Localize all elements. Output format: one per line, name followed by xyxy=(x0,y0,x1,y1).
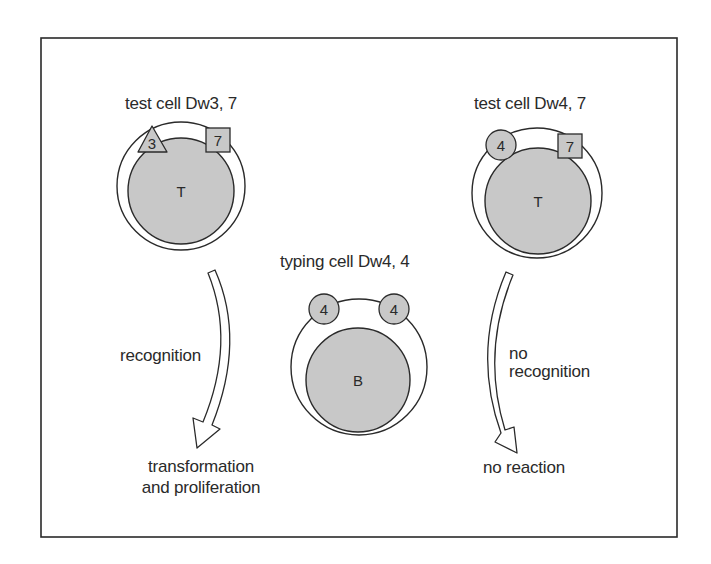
svg-text:T: T xyxy=(176,183,185,200)
svg-text:4: 4 xyxy=(390,301,398,318)
outcome-left-line1: transformation xyxy=(108,457,294,477)
no-recognition-label-line2: recognition xyxy=(509,362,590,382)
typing-cell: 4 4 B xyxy=(291,294,427,435)
test-cell-left: 3 7 T xyxy=(117,122,245,250)
no-recognition-label-line1: no xyxy=(509,344,528,364)
mlc-diagram: 3 7 T 4 7 T xyxy=(0,0,711,564)
diagram-canvas: 3 7 T 4 7 T xyxy=(0,0,711,564)
antigen-circle-4: 4 xyxy=(486,130,516,160)
test-cell-left-title: test cell Dw3, 7 xyxy=(125,94,237,114)
test-cell-right-title: test cell Dw4, 7 xyxy=(474,94,586,114)
svg-text:3: 3 xyxy=(148,135,156,152)
typing-cell-title: typing cell Dw4, 4 xyxy=(280,252,410,272)
svg-text:4: 4 xyxy=(320,301,328,318)
svg-text:4: 4 xyxy=(497,137,505,154)
recognition-label: recognition xyxy=(120,346,201,366)
svg-text:7: 7 xyxy=(566,138,574,155)
antigen-circle-4-right: 4 xyxy=(379,294,409,324)
outcome-left-line2: and proliferation xyxy=(108,478,294,498)
test-cell-right: 4 7 T xyxy=(472,128,602,258)
svg-text:B: B xyxy=(353,372,363,389)
svg-text:7: 7 xyxy=(214,132,222,149)
svg-text:T: T xyxy=(533,193,542,210)
antigen-circle-4-left: 4 xyxy=(309,294,339,324)
no-reaction-label: no reaction xyxy=(483,458,565,478)
antigen-square-7: 7 xyxy=(206,128,230,152)
antigen-square-7: 7 xyxy=(558,134,582,158)
